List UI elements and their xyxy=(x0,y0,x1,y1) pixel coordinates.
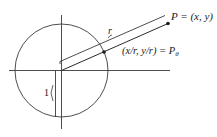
label-one: 1 xyxy=(44,87,49,98)
point-p-theta xyxy=(102,50,106,54)
label-p: P = (x, y) xyxy=(170,10,213,23)
label-p-theta-coords: (x/r, y/r) = P xyxy=(122,45,176,57)
label-p-theta: (x/r, y/r) = Pθ xyxy=(122,45,179,58)
point-p xyxy=(166,22,170,26)
polar-projection-diagram: P = (x, y) r (x/r, y/r) = Pθ 1 xyxy=(0,0,217,137)
label-r: r xyxy=(108,25,112,36)
r-length-line xyxy=(60,16,165,65)
one-brace xyxy=(51,85,53,101)
label-p-theta-sub: θ xyxy=(175,50,179,58)
